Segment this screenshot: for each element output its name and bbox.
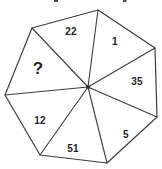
sector-label-top-right: 1 — [112, 36, 118, 47]
spoke-bottom-left — [40, 87, 88, 155]
sector-label-top: 22 — [65, 26, 77, 37]
spoke-bottom — [88, 87, 107, 163]
spoke-lines — [5, 10, 157, 163]
sector-label-bottom-right: 5 — [123, 129, 129, 140]
puzzle-figure: 22 1 35 5 51 12 ? — [0, 0, 162, 169]
sector-label-bottom-left: 12 — [34, 115, 46, 126]
spoke-top-right — [88, 48, 155, 87]
spoke-right — [88, 87, 157, 117]
spoke-top — [88, 10, 98, 87]
heptagon-outline — [5, 10, 157, 163]
center-dot — [86, 85, 90, 89]
cropped-text-artifact-right — [123, 0, 127, 2]
sector-label-bottom: 51 — [67, 143, 79, 154]
cropped-text-artifact-left — [54, 0, 58, 2]
spoke-left — [5, 87, 88, 95]
sector-label-right: 35 — [131, 76, 143, 87]
sector-label-question: ? — [33, 59, 44, 79]
cropped-text-artifact — [54, 0, 127, 2]
